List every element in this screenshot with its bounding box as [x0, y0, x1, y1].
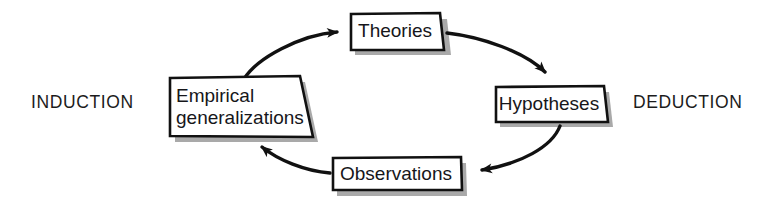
arrow-hypotheses-to-observations: [482, 126, 560, 170]
arrow-theories-to-hypotheses: [447, 33, 545, 72]
observations-box: [333, 157, 462, 190]
arrow-observations-to-empirical: [262, 147, 330, 173]
hypotheses-box: [496, 86, 608, 122]
empirical-box: [170, 76, 313, 137]
arrow-empirical-to-theories: [244, 32, 337, 79]
side-label-deduction: DEDUCTION: [633, 94, 742, 112]
wheel-of-science-diagram: Theories Hypotheses Observations Empiric…: [0, 0, 774, 216]
side-label-induction: INDUCTION: [31, 94, 134, 112]
theories-box: [351, 13, 444, 50]
node-boxes: [170, 13, 608, 190]
